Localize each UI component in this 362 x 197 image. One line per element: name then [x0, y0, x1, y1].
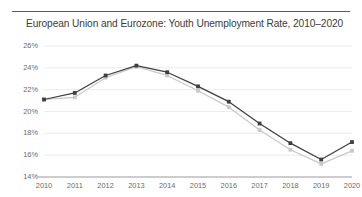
data-point-marker [73, 91, 77, 95]
x-axis-tick-label: 2012 [91, 181, 121, 190]
data-point-marker [289, 141, 293, 145]
data-point-marker [196, 89, 200, 93]
y-axis-tick-label: 18% [12, 128, 38, 137]
x-axis-tick-label: 2016 [214, 181, 244, 190]
x-axis-tick-label: 2013 [121, 181, 151, 190]
data-point-marker [73, 95, 77, 99]
y-axis-tick-label: 22% [12, 85, 38, 94]
data-point-marker [319, 158, 323, 162]
series-line [44, 67, 352, 164]
data-point-marker [104, 74, 108, 78]
x-axis-tick-label: 2010 [29, 181, 59, 190]
data-point-marker [319, 162, 323, 166]
y-axis-tick-label: 26% [12, 41, 38, 50]
y-axis-tick-label: 20% [12, 107, 38, 116]
data-point-marker [165, 70, 169, 74]
data-point-marker [135, 64, 139, 68]
x-axis-tick-label: 2018 [275, 181, 305, 190]
x-axis-tick-label: 2015 [183, 181, 213, 190]
x-axis-tick-label: 2017 [245, 181, 275, 190]
data-point-marker [227, 100, 231, 104]
data-point-marker [258, 128, 262, 132]
x-axis-tick-label: 2020 [337, 181, 362, 190]
data-point-marker [42, 98, 46, 102]
x-axis-tick-label: 2011 [60, 181, 90, 190]
data-point-marker [165, 74, 169, 78]
data-point-marker [258, 122, 262, 126]
x-axis-tick-label: 2014 [152, 181, 182, 190]
data-point-marker [289, 148, 293, 152]
x-axis-tick-label: 2019 [306, 181, 336, 190]
data-point-marker [196, 84, 200, 88]
data-point-marker [227, 105, 231, 109]
data-point-marker [350, 140, 354, 144]
y-axis-tick-label: 24% [12, 63, 38, 72]
chart-screenshot: European Union and Eurozone: Youth Unemp… [0, 0, 362, 197]
series-line [44, 66, 352, 160]
chart-svg [0, 0, 362, 197]
chart-plot-area: 26%24%22%20%18%16%14%2010201120122013201… [0, 0, 362, 197]
data-point-marker [350, 149, 354, 153]
y-axis-tick-label: 14% [12, 172, 38, 181]
y-axis-tick-label: 16% [12, 150, 38, 159]
